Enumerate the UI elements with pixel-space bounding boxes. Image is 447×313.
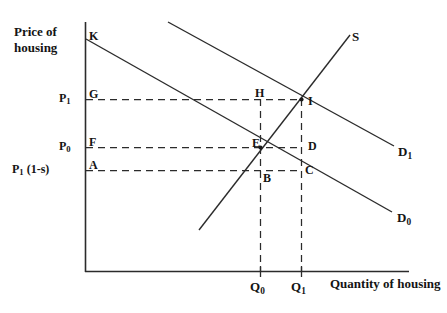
y-tick-p0-sub: 0 (66, 144, 70, 154)
x-tick-q0-sub: 0 (260, 286, 265, 296)
y-tick-label-p0: P0 (59, 140, 71, 154)
curve-demand-d1 (168, 22, 394, 146)
y-axis-title-line1: Price of (14, 24, 57, 40)
y-axis-title: Price of housing (14, 24, 57, 56)
curve-label-D0: D0 (397, 211, 411, 227)
point-label-E: E (252, 137, 260, 149)
y-axis-title-line2: housing (14, 40, 57, 56)
y-tick-label-p1-minus-s: P1 (1-s) (12, 163, 49, 177)
point-label-K: K (89, 30, 98, 42)
x-tick-q1-sub: 1 (301, 286, 306, 296)
point-label-F: F (89, 136, 96, 148)
curve-label-D0-sub: 0 (406, 217, 411, 227)
point-label-H: H (255, 87, 264, 99)
economics-supply-demand-figure: Price of housing Quantity of housing P1 … (0, 0, 447, 313)
x-tick-q1-main: Q (291, 279, 301, 294)
x-tick-label-q1: Q1 (291, 280, 306, 296)
curve-label-D0-main: D (397, 210, 406, 225)
curve-label-D1-sub: 1 (407, 151, 412, 161)
dot-I (299, 97, 303, 101)
point-label-B: B (263, 172, 271, 184)
point-label-A: A (89, 159, 98, 171)
curve-demand-d0 (86, 39, 392, 212)
guide-lines-group (86, 99, 302, 271)
curve-label-S: S (352, 30, 359, 43)
curve-label-D1: D1 (398, 145, 412, 161)
curve-label-D1-main: D (398, 144, 407, 159)
y-tick-p1-sub: 1 (66, 96, 70, 106)
point-label-I: I (308, 95, 313, 107)
curve-supply-s (199, 35, 350, 230)
point-label-G: G (89, 88, 98, 100)
curves-group (86, 22, 394, 230)
x-tick-q0-main: Q (250, 279, 260, 294)
x-tick-label-q0: Q0 (250, 280, 265, 296)
chart-canvas (0, 0, 447, 313)
x-axis-title: Quantity of housing (330, 277, 441, 290)
y-tick-p1s-suffix: (1-s) (24, 162, 50, 176)
point-label-C: C (305, 164, 314, 176)
y-tick-label-p1: P1 (59, 92, 71, 106)
point-label-D: D (308, 140, 317, 152)
